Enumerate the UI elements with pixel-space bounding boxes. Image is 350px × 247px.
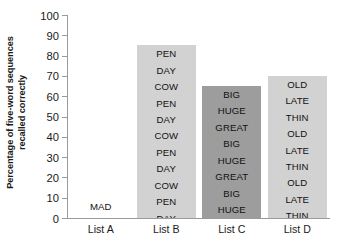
bar-word: OLD: [287, 126, 307, 142]
bar-list-d: OLDLATETHINOLDLATETHINOLDLATETHINOLD: [268, 76, 327, 218]
y-tick: 80: [62, 56, 68, 57]
bar-word: GREAT: [215, 120, 248, 136]
y-tick-label: 100: [40, 10, 59, 22]
y-tick-label: 70: [47, 70, 59, 82]
bar-word: THIN: [286, 110, 309, 126]
bar-word: HUGE: [218, 202, 246, 218]
y-tick: 10: [62, 198, 68, 199]
bar-word: BIG: [223, 136, 240, 152]
bar-list-c: BIGHUGEGREATBIGHUGEGREATBIGHUGEGREAT: [202, 86, 261, 218]
y-tick-label: 90: [47, 30, 59, 42]
bar-chart: Percentage of five-word sequences recall…: [0, 0, 350, 247]
bar-word: DAY: [157, 211, 176, 218]
bar-word: LATE: [285, 93, 309, 109]
bar-word: LATE: [285, 143, 309, 159]
bar-word: OLD: [287, 77, 307, 93]
y-tick: 70: [62, 76, 68, 77]
y-tick: 40: [62, 137, 68, 138]
bar-word: DAY: [157, 63, 176, 79]
bar-word: THIN: [286, 159, 309, 175]
bar-word: COW: [154, 128, 178, 144]
bar-word: OLD: [287, 175, 307, 191]
plot-area: 1009080706050403020100 MADPENDAYCOWPENDA…: [68, 15, 330, 218]
y-tick: 20: [62, 177, 68, 178]
bar-word: COW: [154, 178, 178, 194]
bar-word: HUGE: [218, 103, 246, 119]
y-tick-label: 80: [47, 50, 59, 62]
bar-word: PEN: [156, 46, 176, 62]
y-tick: 30: [62, 157, 68, 158]
y-tick-label: 50: [47, 111, 59, 123]
y-axis-title-line2: recalled correctly: [16, 36, 28, 189]
y-tick-label: 40: [47, 131, 59, 143]
bar-list-b: PENDAYCOWPENDAYCOWPENDAYCOWPENDAYCOW: [137, 45, 196, 218]
y-tick-label: 20: [47, 172, 59, 184]
y-tick-label: 0: [53, 213, 59, 225]
bar-word: DAY: [157, 161, 176, 177]
y-tick-label: 10: [47, 192, 59, 204]
bar-word: DAY: [157, 112, 176, 128]
bar-word: MAD: [90, 199, 112, 215]
y-tick-label: 30: [47, 152, 59, 164]
y-tick: 100: [62, 15, 68, 16]
bar-word: PEN: [156, 194, 176, 210]
y-tick: 60: [62, 96, 68, 97]
y-tick: 50: [62, 117, 68, 118]
x-tick-label-list-d: List D: [265, 223, 331, 235]
y-axis-title-line1: Percentage of five-word sequences: [5, 36, 15, 189]
bar-word: HUGE: [218, 153, 246, 169]
bar-word: BIG: [223, 186, 240, 202]
bar-word: BIG: [223, 87, 240, 103]
x-tick-label-list-a: List A: [68, 223, 134, 235]
bar-word: COW: [154, 79, 178, 95]
y-tick: 0: [62, 218, 68, 219]
bar-word: PEN: [156, 96, 176, 112]
bar-word: THIN: [286, 208, 309, 218]
bar-word: GREAT: [215, 169, 248, 185]
x-tick-label-list-c: List C: [199, 223, 265, 235]
y-axis-title: Percentage of five-word sequences recall…: [0, 0, 32, 225]
y-tick-label: 60: [47, 91, 59, 103]
bar-word: PEN: [156, 145, 176, 161]
y-tick: 90: [62, 35, 68, 36]
x-axis-line: [67, 218, 330, 219]
bar-word: LATE: [285, 192, 309, 208]
bar-list-a: MAD: [71, 198, 130, 218]
x-tick-label-list-b: List B: [134, 223, 200, 235]
